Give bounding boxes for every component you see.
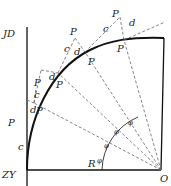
end-radius-line: [161, 38, 164, 170]
label-p4-prime: P: [111, 8, 119, 19]
label-p2-prime: P: [33, 77, 41, 88]
label-r: R: [87, 158, 96, 169]
label-phi4: φ: [128, 119, 133, 127]
label-d3: d: [74, 46, 80, 57]
curve-setting-diagram: JD ZY R O P P P P P P P P c c c c d d d …: [0, 0, 171, 186]
label-d2: d: [49, 71, 55, 82]
radial-lines: [34, 40, 161, 170]
label-p4: P: [116, 43, 124, 54]
label-p1-prime: P: [7, 117, 15, 128]
label-d1: d: [30, 104, 36, 115]
label-c2: c: [34, 89, 40, 100]
label-c1: c: [18, 141, 24, 152]
label-p3-prime: P: [69, 26, 77, 37]
label-d4: d: [129, 17, 135, 28]
label-jd: JD: [1, 28, 15, 39]
label-phi1: φ: [97, 157, 102, 165]
label-p2: P: [55, 79, 63, 90]
label-o: O: [160, 173, 168, 184]
label-phi3: φ: [114, 128, 119, 136]
diagram-svg: JD ZY R O P P P P P P P P c c c c d d d …: [0, 0, 171, 186]
label-p3: P: [87, 56, 95, 67]
circular-arc: [27, 38, 164, 170]
label-c4: c: [103, 23, 109, 34]
label-phi2: φ: [104, 142, 109, 150]
label-zy: ZY: [1, 169, 17, 180]
label-c3: c: [64, 43, 70, 54]
